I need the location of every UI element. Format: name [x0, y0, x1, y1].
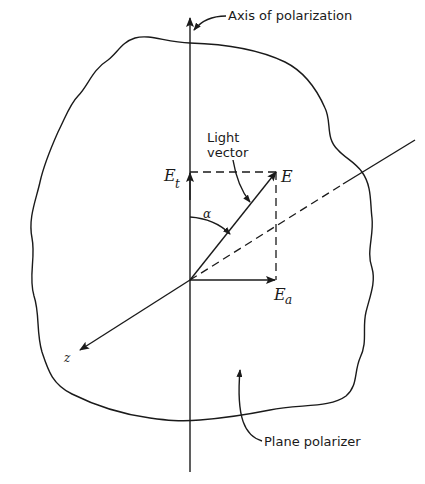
polarization-diagram: Axis of polarization z E E t E a Light v… — [0, 0, 425, 484]
Et-subscript: t — [175, 177, 180, 191]
plane-polarizer-leader — [239, 370, 262, 441]
z-axis-arrow — [80, 280, 190, 350]
axis-of-polarization-label: Axis of polarization — [228, 8, 352, 23]
alpha-label: α — [203, 207, 211, 221]
propagation-dashed-line — [190, 184, 343, 280]
light-vector-label-line1: Light — [207, 130, 239, 145]
axis-label-leader — [194, 16, 226, 30]
light-vector-label-line2: vector — [207, 145, 249, 160]
E-label: E — [280, 167, 293, 186]
plane-polarizer-label: Plane polarizer — [264, 434, 361, 449]
z-label: z — [63, 351, 71, 365]
plane-polarizer-outline — [31, 37, 373, 421]
light-vector-arrow — [190, 172, 276, 280]
Ea-subscript: a — [285, 293, 292, 307]
propagation-solid-line — [343, 140, 415, 184]
light-vector-leader — [233, 160, 250, 202]
